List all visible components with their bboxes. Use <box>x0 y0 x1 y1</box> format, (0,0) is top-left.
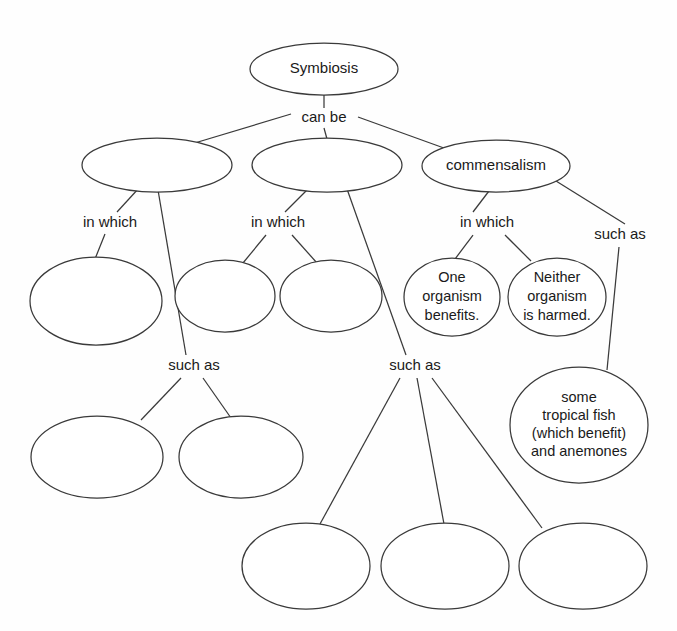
node-label-line: tropical fish <box>542 407 615 423</box>
blank-concept-node[interactable] <box>30 257 162 345</box>
edge-label-such-as-right: such as <box>594 225 646 242</box>
concept-node[interactable]: Symbiosis <box>250 43 398 95</box>
connector-line <box>417 378 444 524</box>
concept-map-svg: SymbiosiscommensalismOneorganismbenefits… <box>0 0 677 631</box>
blank-concept-node[interactable] <box>242 523 370 609</box>
connector-line <box>320 378 400 524</box>
node-label-line: is harmed. <box>523 307 591 323</box>
concept-node[interactable]: commensalism <box>422 140 570 192</box>
edge-label-in-which-2: in which <box>251 213 305 230</box>
blank-concept-node[interactable] <box>519 523 647 609</box>
connector-line <box>473 191 489 212</box>
node-label-line: organism <box>527 288 587 304</box>
connector-line <box>203 378 231 418</box>
node-ellipse-shape <box>30 257 162 345</box>
blank-concept-node[interactable] <box>252 138 402 192</box>
connector-line <box>455 235 473 259</box>
node-ellipse-shape <box>242 523 370 609</box>
connector-line <box>141 378 181 420</box>
node-ellipse-shape <box>31 416 163 498</box>
node-label-line: and anemones <box>531 443 627 459</box>
connector-line <box>243 235 266 263</box>
node-ellipse-shape <box>82 138 232 192</box>
node-label-line: benefits. <box>425 307 480 323</box>
blank-concept-node[interactable] <box>179 416 303 498</box>
edge-label-can-be: can be <box>301 108 346 125</box>
node-label-line: One <box>438 269 465 285</box>
concept-node[interactable]: Oneorganismbenefits. <box>404 258 500 336</box>
node-label-line: (which benefit) <box>532 425 626 441</box>
node-label-line: organism <box>422 288 482 304</box>
node-ellipse-shape <box>252 138 402 192</box>
concept-node[interactable]: Neitherorganismis harmed. <box>508 258 606 336</box>
node-ellipse-shape <box>175 260 275 332</box>
node-label: commensalism <box>446 156 546 173</box>
edge-label-in-which-1: in which <box>83 213 137 230</box>
edge-label-in-which-3: in which <box>460 213 514 230</box>
connector-line <box>285 189 308 212</box>
node-ellipse-shape <box>280 260 382 332</box>
node-label-line: Symbiosis <box>290 59 358 76</box>
blank-concept-node[interactable] <box>175 260 275 332</box>
connector-line <box>292 235 317 263</box>
connector-line <box>117 188 139 212</box>
connector-line <box>607 247 619 370</box>
connector-line <box>95 234 105 259</box>
blank-concept-node[interactable] <box>280 260 382 332</box>
connector-line <box>158 190 186 355</box>
blank-concept-node[interactable] <box>82 138 232 192</box>
blank-concept-node[interactable] <box>381 523 509 609</box>
nodes-layer: SymbiosiscommensalismOneorganismbenefits… <box>30 43 648 609</box>
node-label-line: some <box>561 389 596 405</box>
node-ellipse-shape <box>179 416 303 498</box>
blank-concept-node[interactable] <box>31 416 163 498</box>
node-ellipse-shape <box>519 523 647 609</box>
concept-node[interactable]: sometropical fish(which benefit)and anem… <box>510 367 648 483</box>
connector-line <box>188 114 291 145</box>
concept-map-canvas: SymbiosiscommensalismOneorganismbenefits… <box>0 0 677 631</box>
node-label-line: Neither <box>534 269 581 285</box>
edge-label-such-as-middle: such as <box>389 356 441 373</box>
connector-line <box>324 128 327 139</box>
connector-line <box>505 235 531 261</box>
edge-label-such-as-left: such as <box>168 356 220 373</box>
node-label: Symbiosis <box>290 59 358 76</box>
node-ellipse-shape <box>381 523 509 609</box>
connector-line <box>556 181 625 224</box>
node-label-line: commensalism <box>446 156 546 173</box>
